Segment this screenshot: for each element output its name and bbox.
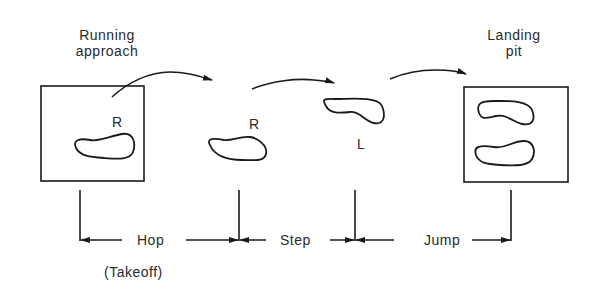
running-approach-label: Running approach [62,27,152,59]
footprint-landing-upper [478,101,533,124]
landing-pit-line1: Landing [478,27,550,43]
footprint-hop-right [209,137,266,160]
arc-jump-flight [390,70,466,79]
hop-phase-label: Hop [137,232,164,248]
footprint-landing-lower [475,141,534,165]
takeoff-foot-label: R [112,114,123,130]
jump-phase-label: Jump [424,232,460,248]
arc-hop-flight [112,72,212,97]
running-approach-line2: approach [62,43,152,59]
landing-pit-label: Landing pit [478,27,550,59]
footprint-takeoff-right [75,134,134,159]
hop-foot-label: R [249,116,260,132]
running-approach-line1: Running [62,27,152,43]
step-foot-label: L [357,136,365,152]
arc-step-flight [252,79,334,89]
takeoff-label: (Takeoff) [104,264,163,280]
landing-pit-line2: pit [478,43,550,59]
step-phase-label: Step [280,232,311,248]
footprint-step-left [324,99,384,124]
